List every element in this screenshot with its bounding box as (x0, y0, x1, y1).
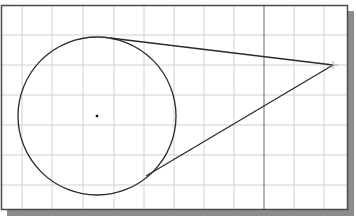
cad-drawing-canvas[interactable] (0, 0, 356, 217)
circle-center-point[interactable] (96, 115, 98, 117)
drawing-area[interactable] (0, 0, 356, 217)
